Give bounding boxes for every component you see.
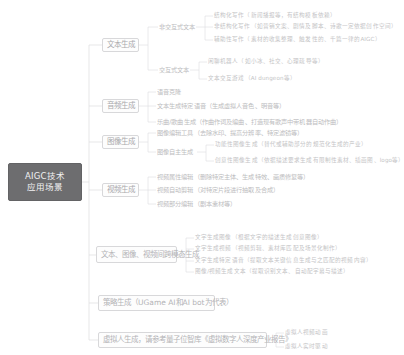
branch-text-generation[interactable]: 文本生成	[102, 38, 139, 52]
branch-video-generation[interactable]: 视频生成	[102, 183, 139, 197]
leaf-virtual-human-video[interactable]: 虚拟人视频动画	[285, 329, 328, 337]
branch-image-generation[interactable]: 图像生成	[102, 135, 139, 149]
leaf-text-to-speech[interactable]: 文本生成特定语音（生成虚拟人音色、明音等）	[157, 102, 285, 110]
leaf-music-generation[interactable]: 乐曲/歌曲生成（作曲作词及编曲、打造现有歌声中带机器自动作曲）	[157, 118, 342, 126]
leaf-text-to-image[interactable]: 文字生成图像（根据文字的描述生成创意图像）	[195, 234, 323, 242]
leaf-functional-image-generation[interactable]: 功能性图像生成（替代或辅助部分的规范化生成的产业）	[215, 141, 368, 149]
leaf-video-attribute-editing[interactable]: 视频属性编辑（删除特定主体、生成特效、画质修复等）	[157, 173, 310, 181]
leaf-text-to-video[interactable]: 文字生成视频（视频剪辑、素材库匹配及场景化制作）	[195, 245, 341, 253]
leaf-image-editing-tools[interactable]: 图像编辑工具（去除水印、提高分辨率、特定滤镜等）	[157, 129, 303, 137]
leaf-assisted-writing[interactable]: 辅助性写作（素材的收集整理、触发性的、千篇一律的AIGC）	[214, 36, 381, 44]
root-node[interactable]: AIGC技术 应用场景	[8, 163, 82, 201]
branch-label: 文本、图像、视频间跨模态生成	[101, 249, 199, 261]
branch-label: 视频生成	[107, 184, 135, 196]
leaf-text-interactive-game[interactable]: 文本交互游戏（AI dungeon等）	[208, 75, 296, 83]
leaf-unstructured-writing[interactable]: 非结构化写作（如营销文案、剧情及脚本、诗歌一定依据创作空间）	[214, 23, 397, 31]
root-label-line1: AIGC技术	[25, 171, 65, 182]
root-label-line2: 应用场景	[27, 182, 64, 193]
branch-audio-generation[interactable]: 音频生成	[102, 99, 139, 113]
node-non-interactive-text[interactable]: 非交互式文本	[159, 23, 196, 31]
branch-label: 策略生成（UGame AI和AI bot为代表）	[103, 297, 233, 309]
leaf-voice-clone[interactable]: 语音克隆	[157, 88, 181, 96]
branch-label: 文本生成	[107, 39, 135, 51]
leaf-video-partial-edit[interactable]: 视频部分编辑（剧本素材等）	[157, 200, 236, 208]
node-interactive-text[interactable]: 交互式文本	[159, 66, 190, 74]
branch-strategy-generation[interactable]: 策略生成（UGame AI和AI bot为代表）	[98, 295, 215, 311]
branch-virtual-human-generation[interactable]: 虚拟人生成，请参考量子位智库《虚拟数字人深度产业报告》	[98, 332, 267, 348]
node-image-autonomous-generation[interactable]: 图像自主生成	[157, 148, 194, 156]
branch-label: 虚拟人生成，请参考量子位智库《虚拟数字人深度产业报告》	[103, 334, 292, 346]
leaf-virtual-human-realtime[interactable]: 虚拟人实时驱动	[285, 343, 328, 351]
leaf-text-to-audio[interactable]: 文字生成特定语音（提取文本关键信息生成与之匹配的视频内容）	[195, 257, 372, 265]
leaf-image-video-to-text[interactable]: 图像/视频生成文本（提取识别文本、自动配字幕与描述）	[195, 268, 349, 276]
leaf-creative-image-generation[interactable]: 创意性图像生成（依据描述要求生成有限制性素材、插画图、logo等）	[215, 157, 404, 165]
leaf-video-auto-clip[interactable]: 视频自动剪辑（对特定片段进行抽取及合成）	[157, 186, 279, 194]
branch-label: 图像生成	[107, 136, 135, 148]
branch-cross-modal-generation[interactable]: 文本、图像、视频间跨模态生成	[96, 246, 177, 263]
leaf-chatbot[interactable]: 闲聊机器人（如小冰、社交、心理疏导等）	[208, 58, 324, 66]
leaf-structured-writing[interactable]: 结构化写作（新闻播报等，有结构模板依赖）	[214, 12, 336, 20]
branch-label: 音频生成	[107, 100, 135, 112]
